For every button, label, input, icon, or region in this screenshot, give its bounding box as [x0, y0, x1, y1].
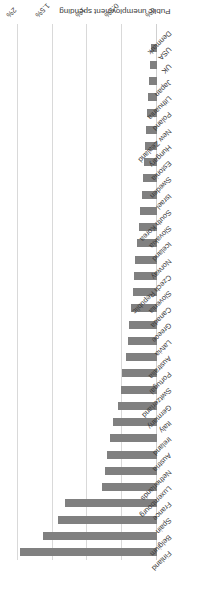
- bar-row: [18, 170, 157, 186]
- bar[interactable]: [105, 467, 157, 475]
- bar-row: [18, 105, 157, 121]
- bar-row: [18, 41, 157, 57]
- bar[interactable]: [43, 532, 157, 540]
- bar[interactable]: [150, 61, 157, 69]
- bar-row: [18, 365, 157, 381]
- bar-row: [18, 57, 157, 73]
- bar[interactable]: [107, 451, 157, 459]
- bar-row: [18, 203, 157, 219]
- bar-row: [18, 495, 157, 511]
- bar[interactable]: [149, 77, 157, 85]
- bar[interactable]: [140, 207, 157, 215]
- bar-row: [18, 430, 157, 446]
- bar-row: [18, 398, 157, 414]
- bar-row: [18, 24, 157, 40]
- bar[interactable]: [20, 548, 157, 556]
- bar-row: [18, 138, 157, 154]
- bar-row: [18, 89, 157, 105]
- bar-row: [18, 317, 157, 333]
- bar-row: [18, 122, 157, 138]
- bar-row: [18, 235, 157, 251]
- bar[interactable]: [126, 353, 157, 361]
- bar-row: [18, 544, 157, 560]
- bar-row: [18, 73, 157, 89]
- category-label: UK: [160, 62, 173, 75]
- tick-label: 2%: [4, 6, 17, 19]
- bar-chart: 0%0.5%1%1.5%2% FinlandBelgiumSpainFrance…: [0, 0, 218, 616]
- bar-row: [18, 447, 157, 463]
- bar-row: [18, 219, 157, 235]
- bar-row: [18, 512, 157, 528]
- bar[interactable]: [110, 434, 157, 442]
- bar-row: [18, 284, 157, 300]
- bar-row: [18, 382, 157, 398]
- bar-row: [18, 414, 157, 430]
- bar-row: [18, 187, 157, 203]
- rotated-figure-container: 0%0.5%1%1.5%2% FinlandBelgiumSpainFrance…: [0, 0, 218, 616]
- bar-row: [18, 333, 157, 349]
- bar-row: [18, 349, 157, 365]
- bar-row: [18, 528, 157, 544]
- bar-row: [18, 463, 157, 479]
- bar-row: [18, 479, 157, 495]
- bar-row: [18, 268, 157, 284]
- plot-area: [18, 24, 157, 560]
- axis-title: Public unemployment spending: [20, 7, 210, 16]
- bar-row: [18, 252, 157, 268]
